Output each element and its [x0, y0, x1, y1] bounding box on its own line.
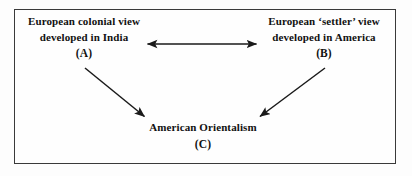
node-c: American Orientalism (C) — [125, 120, 281, 152]
node-b: European ‘settler’ view developed in Ame… — [246, 14, 402, 62]
node-c-tag: (C) — [125, 137, 281, 153]
node-a-line2: developed in India — [6, 30, 162, 46]
node-b-line1: European ‘settler’ view — [246, 14, 402, 30]
node-a: European colonial view developed in Indi… — [6, 14, 162, 62]
diagram-figure: European colonial view developed in Indi… — [0, 0, 412, 176]
node-a-line1: European colonial view — [6, 14, 162, 30]
node-a-tag: (A) — [6, 46, 162, 62]
node-b-tag: (B) — [246, 46, 402, 62]
node-c-line1: American Orientalism — [125, 120, 281, 136]
node-b-line2: developed in America — [246, 30, 402, 46]
